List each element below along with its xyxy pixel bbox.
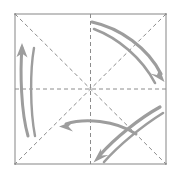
corner-mark-tl [14, 13, 16, 15]
corner-mark-tr [165, 13, 167, 15]
diagram-canvas [0, 0, 177, 174]
origami-diagram [0, 0, 177, 174]
corner-mark-bl [14, 163, 16, 165]
corner-mark-br [165, 163, 167, 165]
